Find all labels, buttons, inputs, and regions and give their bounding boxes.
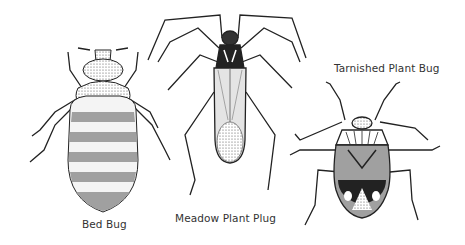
insect-illustration: Bed Bug Meadow Plant Plug Tarnished Plan…	[0, 0, 465, 245]
bed-bug-drawing	[30, 48, 170, 212]
label-bed-bug: Bed Bug	[82, 218, 127, 230]
meadow-plant-bug-drawing	[148, 15, 306, 195]
label-tarnished-plant-bug: Tarnished Plant Bug	[334, 62, 440, 74]
tarnished-plant-bug-drawing	[290, 82, 440, 225]
label-meadow-plant-bug: Meadow Plant Plug	[175, 212, 276, 224]
illustration-svg	[0, 0, 465, 245]
